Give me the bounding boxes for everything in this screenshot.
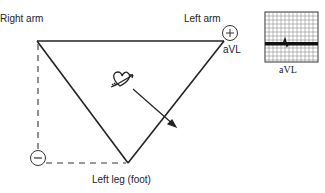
label-strip-aVL: aVL [279, 64, 297, 75]
einthoven-aVL-diagram: Right arm Left arm Left leg (foot) aVL a… [0, 0, 325, 193]
vector-arrow-icon [133, 89, 176, 127]
right-side [37, 41, 128, 163]
negative-connection-lines [38, 44, 126, 163]
label-left-leg: Left leg (foot) [92, 174, 151, 185]
label-left-arm: Left arm [184, 13, 221, 24]
ecg-strip-aVL [265, 12, 318, 62]
einthoven-triangle [37, 41, 224, 163]
heart-icon [111, 72, 133, 87]
left-side [128, 41, 224, 163]
label-lead-aVL: aVL [223, 44, 241, 55]
negative-electrode-icon [31, 151, 46, 166]
label-right-arm: Right arm [0, 13, 43, 24]
positive-electrode-icon [223, 26, 238, 41]
